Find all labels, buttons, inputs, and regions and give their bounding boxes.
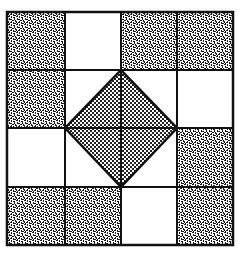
cell-r3-c3 (177, 187, 233, 245)
cell-r0-c3 (177, 12, 233, 70)
cell-r0-c0 (7, 12, 65, 70)
cell-r3-c0 (7, 187, 65, 245)
cell-r2-c3 (177, 128, 233, 187)
quilt-diagram (0, 0, 238, 256)
cell-r0-c2 (121, 12, 177, 70)
cell-r3-c1 (65, 187, 121, 245)
cell-r1-c0 (7, 70, 65, 128)
